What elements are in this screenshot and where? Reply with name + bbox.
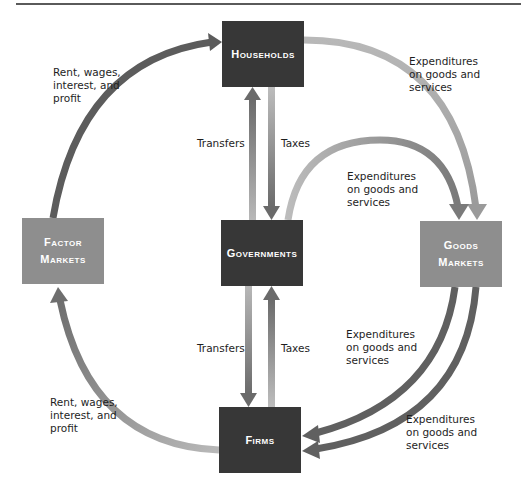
arrow-upper-transfers [244, 87, 261, 220]
node-goods-markets-label-2: Markets [438, 254, 484, 271]
node-governments: Governments [221, 220, 303, 286]
node-households-label: Households [231, 46, 295, 63]
node-goods-markets-label-1: Goods [438, 237, 484, 254]
node-governments-label: Governments [227, 245, 298, 262]
arrow-upper-taxes [263, 86, 280, 220]
arrow-factor-to-households [53, 33, 222, 218]
node-firms: Firms [219, 407, 301, 473]
label-households-to-goods: Expenditures on goods and services [409, 55, 480, 94]
node-households: Households [222, 21, 304, 87]
label-goods-to-firms-2: Expenditures on goods and services [406, 413, 477, 452]
node-firms-label: Firms [245, 432, 274, 449]
label-upper-taxes: Taxes [281, 137, 310, 150]
label-goods-to-firms-1: Expenditures on goods and services [346, 328, 417, 367]
label-upper-transfers: Transfers [197, 137, 245, 150]
label-factor-to-households: Rent, wages, interest, and profit [53, 66, 121, 105]
label-lower-taxes: Taxes [281, 342, 310, 355]
arrow-lower-taxes [263, 286, 280, 407]
label-lower-transfers: Transfers [197, 342, 245, 355]
node-factor-markets-label-2: Markets [40, 251, 86, 268]
node-factor-markets: Factor Markets [22, 218, 104, 284]
node-factor-markets-label-1: Factor [40, 234, 86, 251]
label-gov-to-goods: Expenditures on goods and services [347, 170, 418, 209]
label-firms-to-factor: Rent, wages, interest, and profit [50, 396, 118, 435]
node-goods-markets: Goods Markets [420, 221, 502, 287]
